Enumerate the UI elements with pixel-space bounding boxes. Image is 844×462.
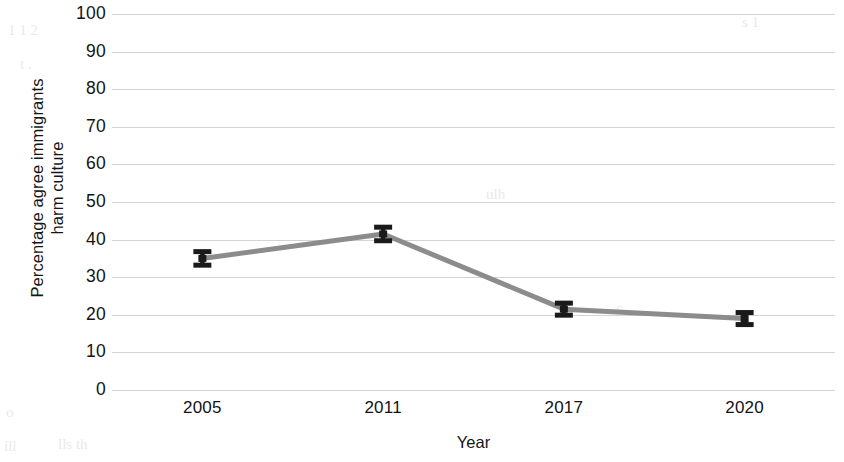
x-tick-label-2005: 2005 (183, 398, 222, 418)
series-layer (112, 14, 835, 390)
y-tick-label-30: 30 (44, 268, 106, 286)
y-tick-label-40: 40 (44, 231, 106, 249)
y-tick-label-20: 20 (44, 306, 106, 324)
y-tick-label-10: 10 (44, 343, 106, 361)
y-tick-label-70: 70 (44, 118, 106, 136)
x-axis-tick-labels: 2005201120172020 (112, 398, 835, 426)
x-tick-label-2011: 2011 (364, 398, 401, 418)
y-tick-label-90: 90 (44, 43, 106, 61)
data-marker (560, 306, 568, 313)
y-tick-label-50: 50 (44, 193, 106, 211)
x-tick-label-2017: 2017 (545, 398, 584, 418)
data-marker (379, 230, 387, 237)
series-line (202, 234, 744, 319)
y-tick-label-80: 80 (44, 80, 106, 98)
plot-area (112, 14, 835, 390)
x-axis-title: Year (112, 432, 835, 452)
y-tick-label-100: 100 (44, 5, 106, 23)
line-chart-figure: 1 1 2 s 1 t . o ill lls th ulh c Percent… (0, 0, 844, 462)
x-tick-label-2020: 2020 (725, 398, 764, 418)
y-axis-tick-labels: 0102030405060708090100 (38, 0, 106, 462)
gridline-0 (112, 390, 835, 391)
data-marker (741, 315, 749, 322)
y-tick-label-60: 60 (44, 155, 106, 173)
y-tick-label-0: 0 (44, 381, 106, 399)
scan-artifact: ill (4, 438, 17, 455)
data-marker (198, 255, 206, 262)
scan-artifact: o (6, 404, 14, 421)
